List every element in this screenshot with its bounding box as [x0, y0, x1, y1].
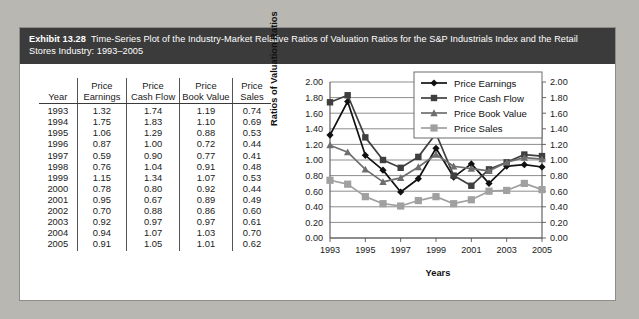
exhibit-screenshot: Exhibit 13.28 Time-Series Plot of the In… [0, 0, 639, 319]
data-point-marker [344, 180, 351, 187]
cell-price-book-value: 1.01 [179, 238, 232, 251]
table-head: Price Price Price Price Year Earnings Ca… [39, 78, 271, 104]
th-price-cash-flow: Cash Flow [127, 91, 180, 104]
table-body: 19931.321.741.190.7419941.751.831.100.69… [39, 103, 271, 251]
data-point-marker [450, 200, 457, 207]
th-top-price-earnings: Price [77, 78, 126, 91]
th-price-sales: Sales [232, 91, 271, 104]
cell-price-cash-flow: 1.74 [127, 103, 180, 116]
cell-price-cash-flow: 0.67 [127, 194, 180, 205]
data-point-marker [468, 196, 475, 203]
data-point-marker [327, 99, 333, 105]
y-tick-label-right: 0.00 [550, 233, 568, 243]
data-point-marker [344, 92, 350, 98]
x-tick-label: 2001 [461, 245, 481, 255]
data-point-marker [485, 187, 492, 194]
cell-year: 2005 [39, 238, 77, 251]
x-tick-label: 2005 [532, 245, 552, 255]
x-tick-label: 1997 [391, 245, 411, 255]
th-top-year [39, 78, 77, 91]
cell-year: 1996 [39, 138, 77, 149]
y-tick-label-left: 0.40 [305, 202, 323, 212]
cell-price-cash-flow: 0.80 [127, 183, 180, 194]
data-point-marker [521, 179, 528, 186]
y-tick-label-right: 2.00 [550, 77, 568, 87]
th-price-book-value: Book Value [179, 91, 232, 104]
cell-year: 2002 [39, 205, 77, 216]
data-point-marker [538, 163, 545, 170]
data-point-marker [397, 202, 404, 209]
chart-legend: Price EarningsPrice Cash FlowPrice Book … [414, 72, 542, 138]
cell-price-earnings: 1.32 [77, 103, 126, 116]
data-point-marker [326, 141, 333, 148]
table-row: 20010.950.670.890.49 [39, 194, 271, 205]
legend-label-3: Price Book Value [454, 107, 527, 118]
exhibit-header: Exhibit 13.28 Time-Series Plot of the In… [20, 28, 615, 64]
cell-price-book-value: 0.86 [179, 205, 232, 216]
cell-price-sales: 0.61 [232, 216, 271, 227]
cell-price-book-value: 0.88 [179, 127, 232, 138]
y-tick-label-left: 1.60 [305, 108, 323, 118]
cell-price-cash-flow: 1.07 [127, 227, 180, 238]
cell-price-sales: 0.44 [232, 183, 271, 194]
cell-price-sales: 0.48 [232, 161, 271, 172]
exhibit-number: Exhibit 13.28 [29, 34, 86, 44]
cell-price-sales: 0.41 [232, 150, 271, 161]
y-tick-label-left: 0.60 [305, 186, 323, 196]
cell-year: 1997 [39, 150, 77, 161]
cell-price-sales: 0.60 [232, 205, 271, 216]
data-table-container: Price Price Price Price Year Earnings Ca… [39, 78, 271, 251]
cell-price-cash-flow: 0.88 [127, 205, 180, 216]
cell-price-cash-flow: 0.90 [127, 150, 180, 161]
th-year: Year [39, 91, 77, 104]
data-point-marker [326, 176, 333, 183]
exhibit-body: Price Price Price Price Year Earnings Ca… [20, 64, 615, 292]
y-tick-label-left: 0.20 [305, 217, 323, 227]
cell-price-earnings: 0.91 [77, 238, 126, 251]
data-point-marker [538, 186, 545, 193]
chart-x-axis-title: Years [268, 268, 608, 278]
data-point-marker [326, 131, 333, 138]
y-tick-label-left: 0.80 [305, 171, 323, 181]
chart-y-axis-title: Ratios of Valuation Ratios [269, 11, 279, 126]
y-tick-label-right: 1.20 [550, 139, 568, 149]
table-row: 19960.871.000.720.44 [39, 138, 271, 149]
table-row: 19951.061.290.880.53 [39, 127, 271, 138]
y-tick-label-left: 1.00 [305, 155, 323, 165]
cell-price-earnings: 1.15 [77, 172, 126, 183]
data-point-marker [397, 164, 403, 170]
cell-price-cash-flow: 0.97 [127, 216, 180, 227]
cell-price-earnings: 0.70 [77, 205, 126, 216]
legend-label-4: Price Sales [454, 122, 503, 133]
cell-price-cash-flow: 1.34 [127, 172, 180, 183]
cell-year: 2000 [39, 183, 77, 194]
table-row: 20020.700.880.860.60 [39, 205, 271, 216]
cell-year: 2001 [39, 194, 77, 205]
table-row: 20030.920.970.970.61 [39, 216, 271, 227]
y-tick-label-left: 1.80 [305, 93, 323, 103]
table-row: 19991.151.341.070.53 [39, 172, 271, 183]
cell-price-book-value: 0.77 [179, 150, 232, 161]
chart-canvas: 0.000.000.200.200.400.400.600.600.800.80… [268, 68, 608, 278]
data-point-marker [415, 197, 422, 204]
cell-price-earnings: 0.92 [77, 216, 126, 227]
y-tick-label-right: 0.80 [550, 171, 568, 181]
y-tick-label-right: 1.40 [550, 124, 568, 134]
data-point-marker [503, 186, 510, 193]
data-point-marker [431, 94, 437, 100]
y-tick-label-left: 2.00 [305, 77, 323, 87]
cell-price-earnings: 0.76 [77, 161, 126, 172]
th-price-earnings: Earnings [77, 91, 126, 104]
cell-year: 1998 [39, 161, 77, 172]
cell-price-cash-flow: 1.29 [127, 127, 180, 138]
y-tick-label-left: 1.40 [305, 124, 323, 134]
cell-price-earnings: 1.75 [77, 116, 126, 127]
data-point-marker [415, 153, 421, 159]
cell-price-sales: 0.53 [232, 127, 271, 138]
cell-price-earnings: 0.78 [77, 183, 126, 194]
table-row: 19970.590.900.770.41 [39, 150, 271, 161]
exhibit-panel: Exhibit 13.28 Time-Series Plot of the In… [20, 28, 615, 300]
cell-price-book-value: 0.72 [179, 138, 232, 149]
x-tick-label: 1995 [355, 245, 375, 255]
data-point-marker [362, 193, 369, 200]
